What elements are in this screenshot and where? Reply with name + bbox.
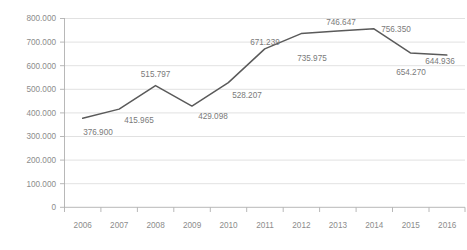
y-tick-label-500: 500.000 [26,85,56,94]
x-tick-marks [65,207,466,212]
data-label-2010: 528.207 [232,91,262,100]
x-tick-label-2007: 2007 [110,221,129,230]
x-tick-label-2012: 2012 [292,221,311,230]
y-tick-labels: 800.000 700.000 600.000 500.000 400.000 … [26,14,56,212]
y-tick-label-100: 100.000 [26,180,56,189]
x-tick-label-2016: 2016 [438,221,457,230]
data-label-2011: 671.239 [250,38,280,47]
x-tick-label-2009: 2009 [183,221,202,230]
data-label-2009: 429.098 [198,112,228,121]
y-tick-label-0: 0 [51,203,56,212]
x-tick-label-2006: 2006 [74,221,93,230]
data-label-2008: 515.797 [141,70,171,79]
data-label-2013: 746.647 [326,18,356,27]
y-tick-marks [60,19,65,208]
y-tick-label-600: 600.000 [26,62,56,71]
x-tick-label-2013: 2013 [329,221,348,230]
x-tick-label-2008: 2008 [146,221,165,230]
line-chart: 800.000 700.000 600.000 500.000 400.000 … [0,0,467,250]
data-label-2015: 654.270 [396,68,426,77]
x-tick-labels: 2006 2007 2008 2009 2010 2011 2012 2013 … [74,221,457,230]
data-label-2016: 644.936 [425,57,455,66]
y-tick-label-700: 700.000 [26,38,56,47]
x-tick-label-2010: 2010 [219,221,238,230]
y-tick-label-800: 800.000 [26,14,56,23]
y-tick-label-200: 200.000 [26,156,56,165]
x-tick-label-2011: 2011 [256,221,274,230]
data-label-2012: 735.975 [297,54,327,63]
x-tick-label-2014: 2014 [365,221,384,230]
y-tick-label-300: 300.000 [26,132,56,141]
y-tick-label-400: 400.000 [26,109,56,118]
data-point-labels: 376.900 415.965 515.797 429.098 528.207 … [83,18,455,137]
data-label-2006: 376.900 [83,128,113,137]
data-label-2007: 415.965 [124,116,154,125]
x-tick-label-2015: 2015 [402,221,421,230]
chart-canvas: 800.000 700.000 600.000 500.000 400.000 … [0,0,467,250]
data-label-2014: 756.350 [381,25,411,34]
